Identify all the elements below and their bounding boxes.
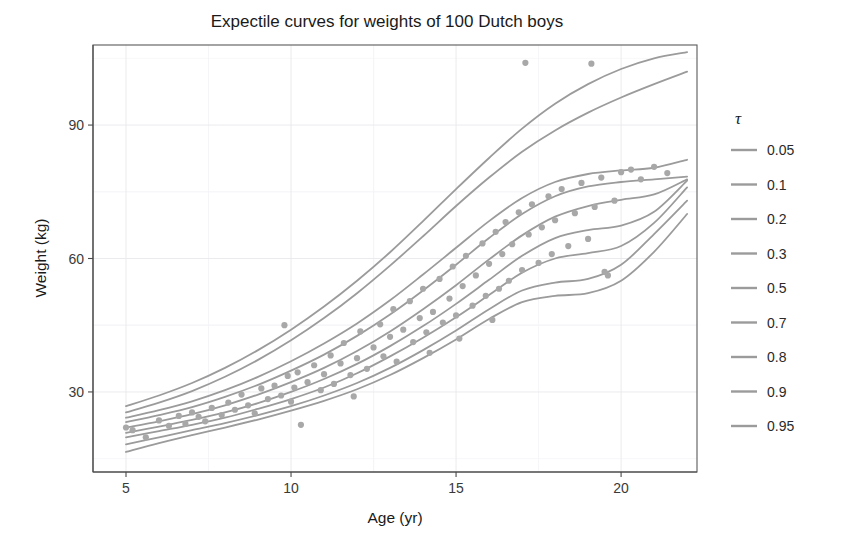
data-point [410,339,416,345]
data-point [337,360,343,366]
x-tick-label: 5 [122,480,130,496]
data-point [321,371,327,377]
data-point [572,210,578,216]
x-tick-label: 20 [613,480,629,496]
data-point [565,243,571,249]
x-axis-title: Age (yr) [367,509,422,526]
data-point [559,186,565,192]
data-point [628,166,634,172]
data-point [489,317,495,323]
data-point [469,303,475,309]
data-point [502,219,508,225]
data-point [450,263,456,269]
data-point [529,201,535,207]
data-point [225,400,231,406]
data-point [496,286,502,292]
data-point [509,241,515,247]
data-point [318,387,324,393]
y-axis-title: Weight (kg) [32,219,49,298]
legend-item-label: 0.95 [767,418,794,434]
data-point [463,253,469,259]
data-point [347,372,353,378]
data-point [427,350,433,356]
data-point [430,309,436,315]
data-point [202,418,208,424]
data-point [486,261,492,267]
data-point [522,60,528,66]
data-point [453,312,459,318]
data-point [423,329,429,335]
data-point [166,423,172,429]
data-point [526,231,532,237]
data-point [245,402,251,408]
data-point [341,340,347,346]
data-point [516,209,522,215]
data-point [196,414,202,420]
data-point [176,413,182,419]
data-point [351,393,357,399]
data-point [436,276,442,282]
data-point [265,396,271,402]
data-point [446,295,452,301]
data-point [664,170,670,176]
data-point [592,204,598,210]
data-point [651,164,657,170]
data-point [605,272,611,278]
data-point [578,180,584,186]
data-point [143,434,149,440]
data-point [460,283,466,289]
x-tick-label: 15 [448,480,464,496]
data-point [638,176,644,182]
data-point [585,236,591,242]
legend-title-tau: τ [735,109,742,128]
data-point [232,407,238,413]
data-point [311,362,317,368]
data-point [130,427,136,433]
data-point [281,322,287,328]
data-point [271,383,277,389]
data-point [357,328,363,334]
data-point [238,392,244,398]
legend-item-label: 0.8 [767,349,787,365]
data-point [295,369,301,375]
legend-item-label: 0.7 [767,315,787,331]
data-point [417,315,423,321]
y-tick-label: 90 [68,117,84,133]
legend-item-label: 0.1 [767,177,787,193]
data-point [285,373,291,379]
data-point [298,422,304,428]
data-point [304,379,310,385]
page-title: Expectile curves for weights of 100 Dutc… [211,12,563,31]
data-point [189,409,195,415]
data-point [611,198,617,204]
legend-item-label: 0.5 [767,280,787,296]
y-tick-label: 30 [68,384,84,400]
data-point [588,61,594,67]
data-point [291,384,297,390]
data-point [420,286,426,292]
data-point [499,251,505,257]
data-point [380,353,386,359]
data-point [252,410,258,416]
data-point [479,240,485,246]
data-point [598,174,604,180]
data-point [331,381,337,387]
y-tick-label: 60 [68,251,84,267]
data-point [123,424,129,430]
data-point [407,298,413,304]
data-point [278,392,284,398]
legend-item-label: 0.9 [767,384,787,400]
data-point [539,224,545,230]
legend-item-label: 0.3 [767,246,787,262]
data-point [394,359,400,365]
data-point [387,334,393,340]
data-point [219,412,225,418]
data-point [288,399,294,405]
data-point [456,335,462,341]
expectile-curves-chart: Expectile curves for weights of 100 Dutc… [0,0,844,549]
data-point [182,421,188,427]
data-point [370,344,376,350]
data-point [545,193,551,199]
data-point [493,229,499,235]
data-point [390,306,396,312]
